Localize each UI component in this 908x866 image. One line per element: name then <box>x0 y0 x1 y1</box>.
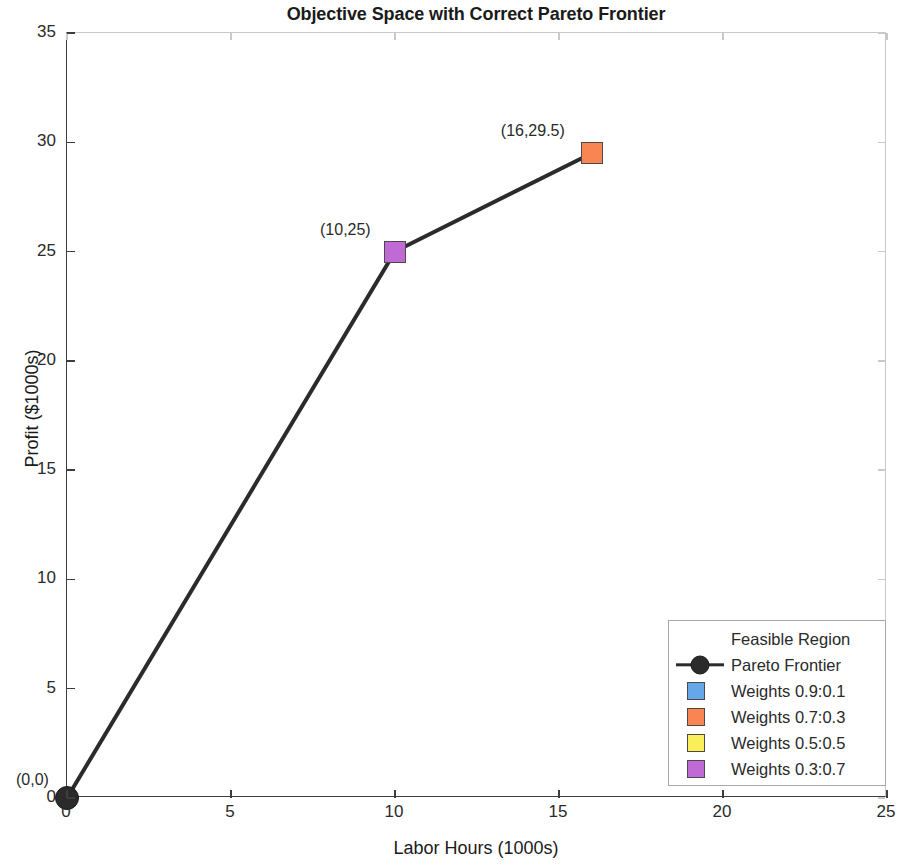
y-axis-label: Profit ($1000s) <box>22 299 43 519</box>
legend-item-label: Feasible Region <box>731 631 850 648</box>
y-tick-label: 35 <box>4 22 56 42</box>
chart-legend[interactable]: Feasible RegionPareto FrontierWeights 0.… <box>668 620 886 786</box>
x-tick-mark <box>394 790 396 798</box>
legend-marker-slot <box>669 704 731 730</box>
y-tick-label: 30 <box>4 131 56 151</box>
y-tick-label: 25 <box>4 241 56 261</box>
pareto-frontier-line <box>67 153 592 798</box>
data-point-label: (0,0) <box>16 771 49 789</box>
y-tick-mark-right <box>878 142 885 144</box>
chart-title: Objective Space with Correct Pareto Fron… <box>66 4 886 25</box>
y-tick-mark-right <box>878 32 885 34</box>
legend-item[interactable]: Weights 0.7:0.3 <box>669 704 885 730</box>
x-tick-mark-top <box>66 33 68 40</box>
y-tick-mark <box>67 797 75 799</box>
y-tick-mark <box>67 579 75 581</box>
x-tick-mark-top <box>886 33 888 40</box>
legend-square-icon <box>687 760 705 778</box>
legend-item[interactable]: Feasible Region <box>669 626 885 652</box>
legend-square-icon <box>687 682 705 700</box>
y-tick-mark <box>67 469 75 471</box>
y-tick-mark-right <box>878 797 885 799</box>
x-tick-mark-top <box>394 33 396 40</box>
y-tick-mark-right <box>878 469 885 471</box>
legend-item-label: Weights 0.9:0.1 <box>731 683 845 700</box>
data-point-label: (16,29.5) <box>501 122 565 140</box>
x-tick-label: 5 <box>225 802 234 822</box>
legend-marker-slot <box>669 678 731 704</box>
legend-marker-slot <box>669 652 731 678</box>
x-tick-mark <box>722 790 724 798</box>
legend-item-label: Weights 0.3:0.7 <box>731 761 845 778</box>
x-tick-label: 10 <box>385 802 404 822</box>
y-tick-mark-right <box>878 579 885 581</box>
y-tick-label: 5 <box>4 678 56 698</box>
x-tick-label: 20 <box>713 802 732 822</box>
chart-figure: Objective Space with Correct Pareto Fron… <box>0 0 908 866</box>
legend-circle-icon <box>691 656 710 675</box>
legend-item-label: Weights 0.7:0.3 <box>731 709 845 726</box>
legend-marker-slot <box>669 626 731 652</box>
legend-item[interactable]: Weights 0.5:0.5 <box>669 730 885 756</box>
x-tick-mark-top <box>230 33 232 40</box>
legend-item[interactable]: Pareto Frontier <box>669 652 885 678</box>
x-axis-label: Labor Hours (1000s) <box>66 838 886 859</box>
y-tick-mark-right <box>878 360 885 362</box>
legend-item-label: Pareto Frontier <box>731 657 841 674</box>
x-tick-label: 15 <box>549 802 568 822</box>
legend-marker-slot <box>669 730 731 756</box>
legend-item[interactable]: Weights 0.3:0.7 <box>669 756 885 782</box>
x-tick-mark-top <box>722 33 724 40</box>
legend-item-label: Weights 0.5:0.5 <box>731 735 845 752</box>
y-tick-mark <box>67 688 75 690</box>
x-tick-label: 0 <box>61 802 70 822</box>
y-tick-mark <box>67 142 75 144</box>
legend-square-icon <box>687 708 705 726</box>
x-tick-mark <box>230 790 232 798</box>
y-tick-mark <box>67 32 75 34</box>
x-tick-mark <box>558 790 560 798</box>
y-tick-label: 0 <box>4 787 56 807</box>
weights-07-03-point-marker <box>581 142 603 164</box>
y-tick-mark <box>67 360 75 362</box>
y-tick-mark-right <box>878 251 885 253</box>
x-tick-label: 25 <box>877 802 896 822</box>
x-tick-mark-top <box>558 33 560 40</box>
y-tick-mark <box>67 251 75 253</box>
data-point-label: (10,25) <box>320 221 371 239</box>
weights-03-07-point-marker <box>384 241 406 263</box>
x-tick-mark <box>886 790 888 798</box>
y-tick-label: 10 <box>4 568 56 588</box>
legend-square-icon <box>687 734 705 752</box>
legend-marker-slot <box>669 756 731 782</box>
legend-item[interactable]: Weights 0.9:0.1 <box>669 678 885 704</box>
